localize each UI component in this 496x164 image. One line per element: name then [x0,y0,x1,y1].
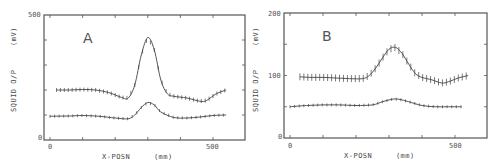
plot-area-b [0,0,496,164]
panel-label-b: B [322,28,332,44]
y-tick-top-b: 200 [268,10,281,18]
y-tick-mid-b: 100 [268,72,281,80]
panel-b: 200 100 0 0 500 B SQUID O/P (mV) X-POSN … [0,0,496,164]
x-axis-label-b: X-POSN (mm) [344,152,415,160]
y-tick-bottom-b: 0 [278,133,282,141]
x-tick-right-b: 500 [449,142,462,150]
x-tick-left-b: 0 [288,142,292,150]
y-axis-label-b: SQUID O/P (mV) [252,27,260,112]
